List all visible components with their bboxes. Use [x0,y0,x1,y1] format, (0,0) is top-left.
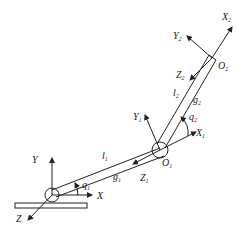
label-y1: Y1 [133,111,142,123]
label-x2: X2 [221,11,231,23]
label-g2: g2 [193,94,201,106]
base-plate [15,203,87,208]
label-x1: X1 [195,127,205,139]
label-z2: Z2 [176,69,185,81]
label-q2: q2 [189,111,197,123]
label-l1: l1 [102,150,108,162]
label-o1: O1 [162,157,172,169]
label-q1: q1 [82,179,90,191]
label-o2: O2 [218,60,228,72]
label-y: Y [32,154,39,165]
manipulator-diagram: Y X Z q1 l1 g1 Z1 O1 Y1 X1 q2 l2 g2 Z2 O… [0,0,244,235]
label-x: X [96,190,104,201]
label-z1: Z1 [140,172,149,184]
label-z: Z [16,213,22,224]
label-y2: Y2 [173,30,182,42]
link-2 [157,55,216,148]
link-1 [52,148,164,197]
label-l2: l2 [173,87,179,99]
